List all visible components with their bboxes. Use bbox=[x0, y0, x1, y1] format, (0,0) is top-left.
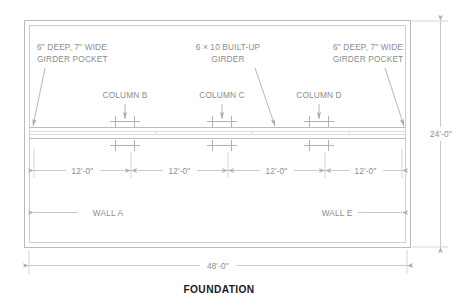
column-b-label: COLUMN B bbox=[103, 90, 148, 100]
note-girder-pocket-left: 6" DEEP, 7" WIDE GIRDER POCKET bbox=[37, 42, 108, 64]
built-up-girder bbox=[30, 128, 406, 139]
column-d-label: COLUMN D bbox=[296, 90, 341, 100]
column-b-mark bbox=[110, 116, 140, 151]
column-c-mark bbox=[207, 116, 237, 151]
note-girder-pocket-right: 6" DEEP, 7" WIDE GIRDER POCKET bbox=[333, 42, 404, 64]
overall-height-label: 24'-0" bbox=[430, 130, 452, 139]
column-d-mark bbox=[304, 116, 334, 151]
bay-dim-3: 12'-0" bbox=[266, 167, 288, 176]
wall-a-label: WALL A bbox=[93, 208, 124, 218]
note-center-line2: GIRDER bbox=[211, 54, 244, 64]
note-left-line1: 6" DEEP, 7" WIDE bbox=[37, 42, 107, 52]
note-left-line2: GIRDER POCKET bbox=[37, 54, 108, 64]
bay-dimension-string: 12'-0" 12'-0" 12'-0" 12'-0" bbox=[34, 149, 402, 178]
girder-pocket-right-leader bbox=[385, 68, 404, 126]
note-built-up-girder: 6 × 10 BUILT-UP GIRDER bbox=[196, 42, 261, 64]
overall-width-label: 48'-0" bbox=[207, 262, 229, 271]
wall-e-label: WALL E bbox=[322, 208, 353, 218]
overall-width-dimension: 48'-0" bbox=[29, 250, 407, 274]
overall-height-dimension: 24'-0" bbox=[412, 21, 458, 247]
note-right-line1: 6" DEEP, 7" WIDE bbox=[333, 42, 403, 52]
bay-dim-1: 12'-0" bbox=[72, 167, 94, 176]
built-up-girder-leader bbox=[255, 68, 275, 126]
bay-dim-2: 12'-0" bbox=[169, 167, 191, 176]
foundation-plan-drawing: 12'-0" 12'-0" 12'-0" 12'-0" 48'-0" 24'-0… bbox=[0, 0, 476, 305]
bay-dim-4: 12'-0" bbox=[355, 167, 377, 176]
drawing-title: FOUNDATION bbox=[183, 284, 254, 295]
note-center-line1: 6 × 10 BUILT-UP bbox=[196, 42, 261, 52]
girder-pocket-left-leader bbox=[33, 68, 45, 126]
column-c-label: COLUMN C bbox=[199, 90, 244, 100]
drawing-canvas: 12'-0" 12'-0" 12'-0" 12'-0" 48'-0" 24'-0… bbox=[0, 0, 476, 305]
note-right-line2: GIRDER POCKET bbox=[333, 54, 404, 64]
